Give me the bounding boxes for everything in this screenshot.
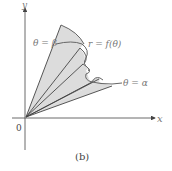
polar-area-diagram: θ = β r = f(θ) θ = α x y 0 (b) (0, 0, 172, 171)
label-theta-alpha: θ = α (123, 78, 148, 88)
label-y-axis: y (21, 0, 28, 10)
label-origin: 0 (16, 123, 22, 133)
label-theta-beta: θ = β (33, 38, 57, 48)
label-x-axis: x (157, 113, 163, 124)
figure-caption: (b) (75, 151, 89, 162)
label-curve: r = f(θ) (88, 39, 122, 49)
